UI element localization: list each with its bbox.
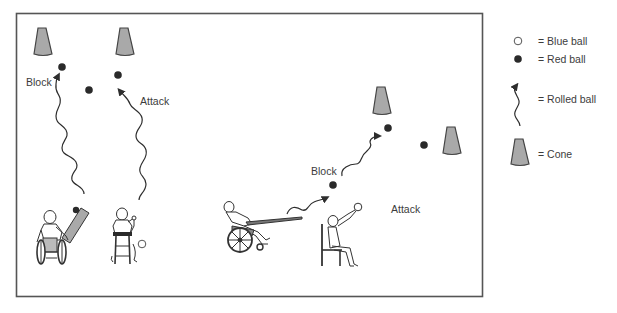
red-ball-icon: [85, 86, 93, 94]
legend-label-red-ball: = Red ball: [538, 54, 586, 65]
red-ball-icon: [58, 63, 66, 71]
cone-icon: [373, 87, 391, 115]
rolled-ball-path: [287, 198, 326, 214]
red-ball-icon: [420, 141, 428, 149]
attack-label-right: Attack: [391, 204, 420, 215]
boccia-field-diagram: [0, 0, 617, 313]
cone-icon: [511, 139, 529, 166]
cone-icon: [116, 28, 134, 56]
cone-icon: [34, 28, 52, 56]
seated-player-throwing: [322, 203, 362, 266]
rolled-ball-path: [56, 76, 84, 194]
rolled-ball-icon: [515, 86, 520, 126]
wheelchair-player-with-ramp: [37, 207, 89, 264]
legend-label-rolled-ball: = Rolled ball: [538, 94, 596, 105]
legend-label-cone: = Cone: [538, 149, 572, 160]
rolled-ball-path: [342, 136, 378, 176]
red-ball-icon: [114, 71, 122, 79]
block-label-left: Block: [26, 77, 52, 88]
cone-icon: [443, 127, 461, 155]
legend: [511, 37, 529, 165]
block-label-right: Block: [311, 166, 337, 177]
seated-player-chair: [111, 208, 137, 264]
rolled-ball-path: [120, 91, 146, 200]
legend-label-blue-ball: = Blue ball: [538, 36, 587, 47]
blue-ball-icon: [514, 37, 522, 45]
red-ball-icon: [329, 181, 337, 189]
attack-label-left: Attack: [140, 96, 169, 107]
red-ball-icon: [384, 124, 392, 132]
blue-ball-icon: [138, 240, 146, 248]
field-border: [17, 14, 483, 297]
red-ball-icon: [514, 55, 522, 63]
